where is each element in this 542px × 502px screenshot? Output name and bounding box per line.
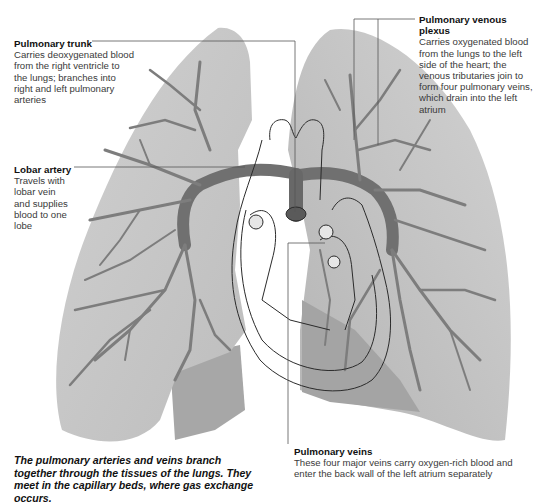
pulmonary-trunk-opening	[286, 207, 306, 221]
callout-pulmonary-venous-plexus: Pulmonary venous plexus Carries oxygenat…	[419, 14, 539, 115]
callout-title: Pulmonary trunk	[14, 38, 134, 49]
figure-caption: The pulmonary arteries and veins branch …	[14, 454, 254, 502]
callout-body: Travels with lobar vein and supplies blo…	[14, 175, 74, 231]
callout-title: Lobar artery	[14, 164, 74, 175]
callout-lobar-artery: Lobar artery Travels with lobar vein and…	[14, 164, 74, 231]
callout-title: Pulmonary veins	[294, 446, 514, 457]
callout-pulmonary-trunk: Pulmonary trunk Carries deoxygenated blo…	[14, 38, 134, 105]
vein-opening	[328, 256, 340, 268]
vein-opening	[249, 215, 263, 229]
callout-pulmonary-veins: Pulmonary veins These four major veins c…	[294, 446, 514, 480]
callout-body: These four major veins carry oxygen-rich…	[294, 457, 514, 479]
vein-opening	[319, 225, 333, 239]
callout-title: Pulmonary venous plexus	[419, 14, 539, 36]
callout-body: Carries deoxygenated blood from the righ…	[14, 49, 134, 105]
callout-body: Carries oxygenated blood from the lungs …	[419, 36, 539, 114]
